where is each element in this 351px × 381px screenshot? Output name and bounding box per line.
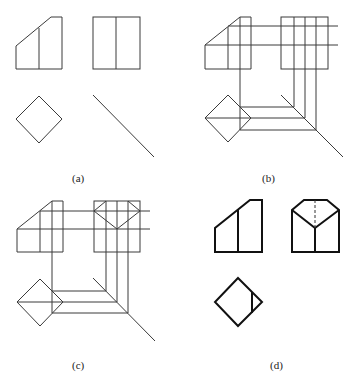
panel-d: (d) [215,200,339,372]
top-view-diamond [215,278,262,326]
miter-line [281,95,343,157]
top-view-diamond [16,96,62,143]
panel-c: (c) [17,201,155,372]
panel-label-a: (a) [72,172,85,185]
miter-line [93,278,155,341]
panel-a: (a) [16,17,154,185]
panel-label-d: (d) [270,359,283,372]
panel-b: (b) [205,17,343,185]
panel-label-c: (c) [72,359,85,372]
figure-canvas: (a) (b) (c) [0,0,351,381]
panel-label-b: (b) [262,172,275,185]
miter-line [93,95,154,157]
